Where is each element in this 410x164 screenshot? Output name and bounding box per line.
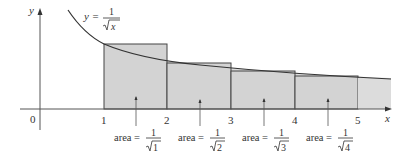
rectangles [104, 44, 358, 109]
tick-label-1: 1 [101, 114, 107, 126]
svg-text:2: 2 [217, 142, 222, 153]
rectangle-3 [231, 71, 295, 109]
svg-text:x: x [110, 21, 116, 32]
svg-text:area =: area = [242, 132, 268, 143]
origin-label: 0 [30, 113, 36, 125]
area-label-2: area = 1 2 [178, 127, 225, 153]
y-axis-label: y [28, 4, 34, 16]
svg-text:4: 4 [345, 142, 350, 153]
svg-text:1: 1 [343, 127, 348, 138]
x-axis-label: x [384, 112, 390, 124]
svg-text:1: 1 [151, 127, 156, 138]
svg-text:1: 1 [153, 142, 158, 153]
svg-text:1: 1 [215, 127, 220, 138]
svg-text:3: 3 [281, 142, 286, 153]
svg-text:1: 1 [109, 6, 114, 17]
svg-text:area =: area = [306, 132, 332, 143]
riemann-sum-diagram: y x 0 1 2 3 4 5 y = 1 x area = 1 1 area … [0, 0, 410, 164]
tick-label-2: 2 [164, 114, 170, 126]
svg-text:1: 1 [279, 127, 284, 138]
area-label-4: area = 1 4 [306, 127, 353, 153]
svg-text:area =: area = [178, 132, 204, 143]
tick-label-4: 4 [292, 114, 298, 126]
tick-label-3: 3 [228, 114, 234, 126]
svg-text:area =: area = [114, 132, 140, 143]
area-label-3: area = 1 3 [242, 127, 289, 153]
y-axis-arrow-icon [38, 8, 43, 15]
rectangle-4 [295, 76, 358, 109]
area-label-1: area = 1 1 [114, 127, 161, 153]
curve-label: y = 1 x [83, 6, 120, 32]
tick-label-5: 5 [355, 114, 361, 126]
svg-text:y =: y = [83, 10, 99, 22]
